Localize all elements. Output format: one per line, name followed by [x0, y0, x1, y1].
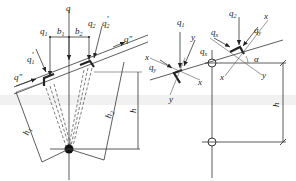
left-y-axis [170, 58, 185, 95]
label-left-qy: qy [149, 62, 157, 73]
leg-dashed-6 [73, 68, 92, 146]
leg-dashed-5 [71, 68, 88, 146]
label-x-left-bottom: x [197, 77, 202, 87]
label-x-left-top: x [144, 52, 149, 62]
label-q2: q2 [88, 18, 96, 29]
label-alpha: α [254, 54, 259, 64]
label-q1: q1 [40, 26, 48, 37]
label-left-qx: qx [200, 46, 208, 57]
label-x-right-top: x [263, 11, 268, 21]
base-line-left [42, 149, 69, 162]
left-qx-arrow [160, 60, 172, 68]
left-diagram: q q1 b1 b2 q2 q2′ q1′ q″ q″ h1 h2 h [14, 3, 148, 180]
label-right-qy: qy [254, 25, 262, 36]
label-h: h [128, 108, 138, 113]
label-q2-prime: q2′ [102, 14, 110, 29]
label-y-left-bottom: y [168, 94, 173, 104]
left-qy-arrow [184, 40, 195, 66]
scan-band [0, 95, 296, 105]
q1-prime-arrow [36, 49, 46, 72]
label-right-q1: q1 [177, 17, 185, 28]
label-y-right-bottom: y [261, 70, 266, 80]
label-y-left-top: y [190, 32, 195, 42]
leg-dashed-4 [69, 70, 84, 146]
right-x-axis [225, 20, 268, 76]
label-q-double-prime-left: q″ [14, 72, 23, 82]
right-diagram: q1 q2 qy qx qx qy x x x x y y y α h [144, 8, 286, 178]
label-x-right-bottom: x [219, 72, 224, 82]
structural-load-diagram: q q1 b1 b2 q2 q2′ q1′ q″ q″ h1 h2 h [0, 0, 296, 181]
label-b1: b1 [57, 26, 65, 37]
label-right-q2: q2 [229, 8, 237, 19]
label-q: q [66, 3, 71, 13]
alpha-arc [246, 56, 248, 63]
right-left-angle-section [174, 70, 182, 83]
label-right-qx: qx [211, 27, 219, 38]
right-right-angle-section [230, 47, 244, 54]
label-b2: b2 [75, 26, 83, 37]
h2-dimension-line [104, 62, 124, 160]
label-q-double-prime-right: q″ [124, 34, 133, 44]
label-right-h: h [271, 102, 281, 107]
base-line-right [69, 149, 104, 160]
label-q1-prime: q1′ [27, 50, 35, 65]
